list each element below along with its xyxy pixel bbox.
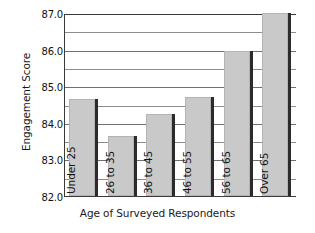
plot-area: Under 2526 to 3536 to 4546 to 5556 to 65…: [64, 14, 296, 197]
y-tick-label: 86.0: [42, 45, 63, 56]
x-axis-title: Age of Surveyed Respondents: [0, 207, 315, 219]
bar-category-label: 36 to 45: [146, 114, 172, 194]
bar-category-label: Under 25: [69, 114, 95, 194]
bar-category-text: 36 to 45: [142, 151, 154, 194]
bar-group: 56 to 65: [224, 14, 263, 196]
bar-shadow: [250, 51, 253, 196]
bar-category-text: Over 65: [258, 153, 270, 194]
bar-group: 36 to 45: [146, 14, 185, 196]
bar-shadow: [134, 136, 137, 196]
y-tick-label: 87.0: [42, 9, 63, 20]
bar-shadow: [288, 13, 291, 196]
bar-category-text: 26 to 35: [104, 151, 116, 194]
bar-category-text: Under 25: [65, 146, 77, 194]
bar-category-label: 46 to 55: [185, 114, 211, 194]
bar-shadow: [211, 97, 214, 196]
bar-group: Over 65: [262, 14, 301, 196]
y-tick-label: 82.0: [42, 192, 63, 203]
y-axis-tick-labels: 82.083.084.085.086.087.0: [31, 14, 63, 197]
y-tick-label: 84.0: [42, 118, 63, 129]
y-tick-label: 85.0: [42, 82, 63, 93]
bar-group: Under 25: [69, 14, 108, 196]
bar-shadow: [95, 99, 98, 196]
bar-category-label: 56 to 65: [224, 114, 250, 194]
bar-category-label: Over 65: [262, 114, 288, 194]
bar-chart: Engagement Score 82.083.084.085.086.087.…: [0, 0, 315, 233]
bar-shadow: [172, 114, 175, 196]
bar-category-text: 56 to 65: [220, 151, 232, 194]
bar-series: Under 2526 to 3536 to 4546 to 5556 to 65…: [65, 14, 296, 196]
bar-group: 26 to 35: [108, 14, 147, 196]
y-tick-label: 83.0: [42, 155, 63, 166]
bar-category-text: 46 to 55: [181, 151, 193, 194]
bar-group: 46 to 55: [185, 14, 224, 196]
bar-category-label: 26 to 35: [108, 114, 134, 194]
